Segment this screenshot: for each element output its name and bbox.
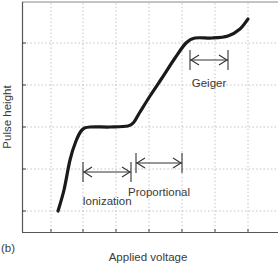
panel-label: (b) <box>1 242 15 254</box>
axis-ticks <box>22 43 248 232</box>
annotation-label: Proportional <box>128 186 190 198</box>
annotation-geiger: Geiger <box>190 50 228 89</box>
annotation-ionization: Ionization <box>82 162 131 207</box>
y-axis-label: Pulse height <box>1 85 13 149</box>
annotation-label: Geiger <box>192 77 227 89</box>
annotation-label: Ionization <box>82 195 131 207</box>
annotation-proportional: Proportional <box>128 153 190 198</box>
x-axis-label: Applied voltage <box>109 251 188 263</box>
pulse-height-curve <box>58 19 248 211</box>
chart: IonizationProportionalGeiger Applied vol… <box>0 0 278 264</box>
